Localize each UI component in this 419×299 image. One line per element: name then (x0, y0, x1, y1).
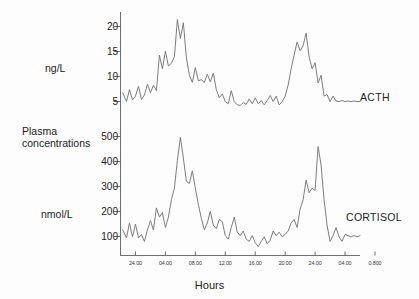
cortisol-ytick-label-300: 300 (86, 181, 118, 192)
acth-data-line (123, 19, 360, 105)
plasma-concentrations-label: Plasma concentrations (22, 125, 106, 149)
x-tick-label-7: 04.00 (339, 260, 352, 266)
cortisol-x-tick-marks (135, 252, 375, 256)
cortisol-series-label: CORTISOL (346, 211, 402, 223)
cortisol-ytick-label-400: 400 (86, 156, 118, 167)
plot-canvas (0, 0, 419, 299)
x-axis-title: Hours (0, 279, 419, 292)
figure-container: 20 15 10 5 500 400 300 200 100 24.0004.0… (0, 0, 419, 299)
acth-ytick-label-5: 5 (94, 96, 118, 107)
acth-y-tick-marks (114, 27, 121, 102)
plasma-label-line1: Plasma (22, 125, 106, 137)
acth-ytick-label-20: 20 (94, 21, 118, 32)
plasma-label-line2: concentrations (22, 137, 106, 149)
acth-series-label: ACTH (360, 91, 390, 103)
cortisol-ytick-label-100: 100 (86, 231, 118, 242)
acth-ytick-label-15: 15 (94, 46, 118, 57)
x-tick-label-3: 12.00 (219, 260, 232, 266)
x-tick-label-1: 04.00 (159, 260, 172, 266)
x-tick-label-5: 20.00 (279, 260, 292, 266)
x-tick-label-2: 08.00 (189, 260, 202, 266)
acth-ytick-label-10: 10 (94, 71, 118, 82)
x-tick-label-4: 16.00 (249, 260, 262, 266)
x-tick-label-0: 24.00 (129, 260, 142, 266)
cortisol-data-line (123, 137, 360, 246)
cortisol-ytick-label-200: 200 (86, 206, 118, 217)
x-tick-label-8: 0.800 (368, 260, 381, 266)
cortisol-unit-label: nmol/L (41, 208, 73, 220)
x-tick-label-6: 24.00 (309, 260, 322, 266)
acth-unit-label: ng/L (45, 62, 65, 74)
